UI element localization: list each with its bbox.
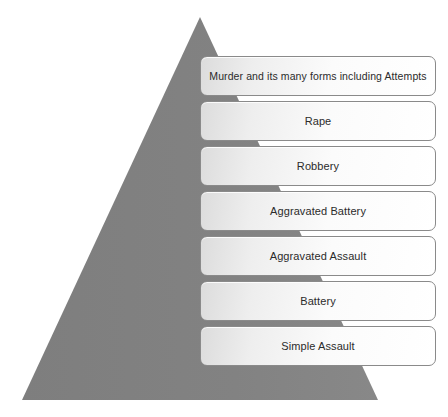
pyramid-tier-label: Murder and its many forms including Atte… — [203, 70, 432, 83]
pyramid-tier-label: Battery — [294, 295, 342, 308]
diagram-canvas: Murder and its many forms including Atte… — [0, 0, 448, 417]
pyramid-tier-4[interactable]: Aggravated Battery — [200, 191, 436, 231]
pyramid-tier-6[interactable]: Battery — [200, 281, 436, 321]
pyramid-tier-2[interactable]: Rape — [200, 101, 436, 141]
pyramid-tier-label: Rape — [299, 115, 338, 128]
pyramid-tier-label: Robbery — [291, 160, 345, 173]
pyramid-tier-label: Simple Assault — [275, 340, 361, 353]
pyramid-tier-5[interactable]: Aggravated Assault — [200, 236, 436, 276]
pyramid-tier-label: Aggravated Battery — [264, 205, 372, 218]
pyramid-tier-7[interactable]: Simple Assault — [200, 326, 436, 366]
pyramid-tier-label: Aggravated Assault — [264, 250, 373, 263]
pyramid-tier-3[interactable]: Robbery — [200, 146, 436, 186]
pyramid-tier-1[interactable]: Murder and its many forms including Atte… — [200, 56, 436, 96]
pyramid-tier-list: Murder and its many forms including Atte… — [200, 56, 436, 372]
